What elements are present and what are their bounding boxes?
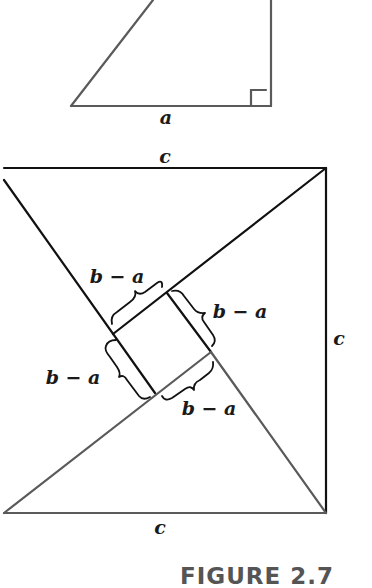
leg-bottom-right [211,352,326,513]
inner-triangles [4,168,326,513]
label-b-minus-a-top-right: b − a [213,300,268,322]
triangle-hypotenuse [71,0,153,106]
braces [106,282,215,400]
label-c-top: c [159,145,171,167]
label-b-minus-a-top-left: b − a [90,265,145,287]
label-c-right: c [333,327,345,349]
brace-top-right [172,291,215,346]
right-angle-marker [251,90,266,106]
leg-bottom-left [4,352,211,513]
brace-bottom-left [106,340,151,399]
label-a: a [160,106,172,128]
label-b-minus-a-bottom-right: b − a [182,397,237,419]
label-c-bottom: c [154,516,166,538]
right-triangle [71,0,271,106]
figure-caption: FIGURE 2.7 [180,563,334,588]
brace-bottom-right [162,362,213,400]
outer-square [4,168,326,513]
pythagorean-diagram: a c c c b − a b − a b − a b − a FIGURE 2 [0,0,372,588]
label-b-minus-a-bottom-left: b − a [46,366,101,388]
